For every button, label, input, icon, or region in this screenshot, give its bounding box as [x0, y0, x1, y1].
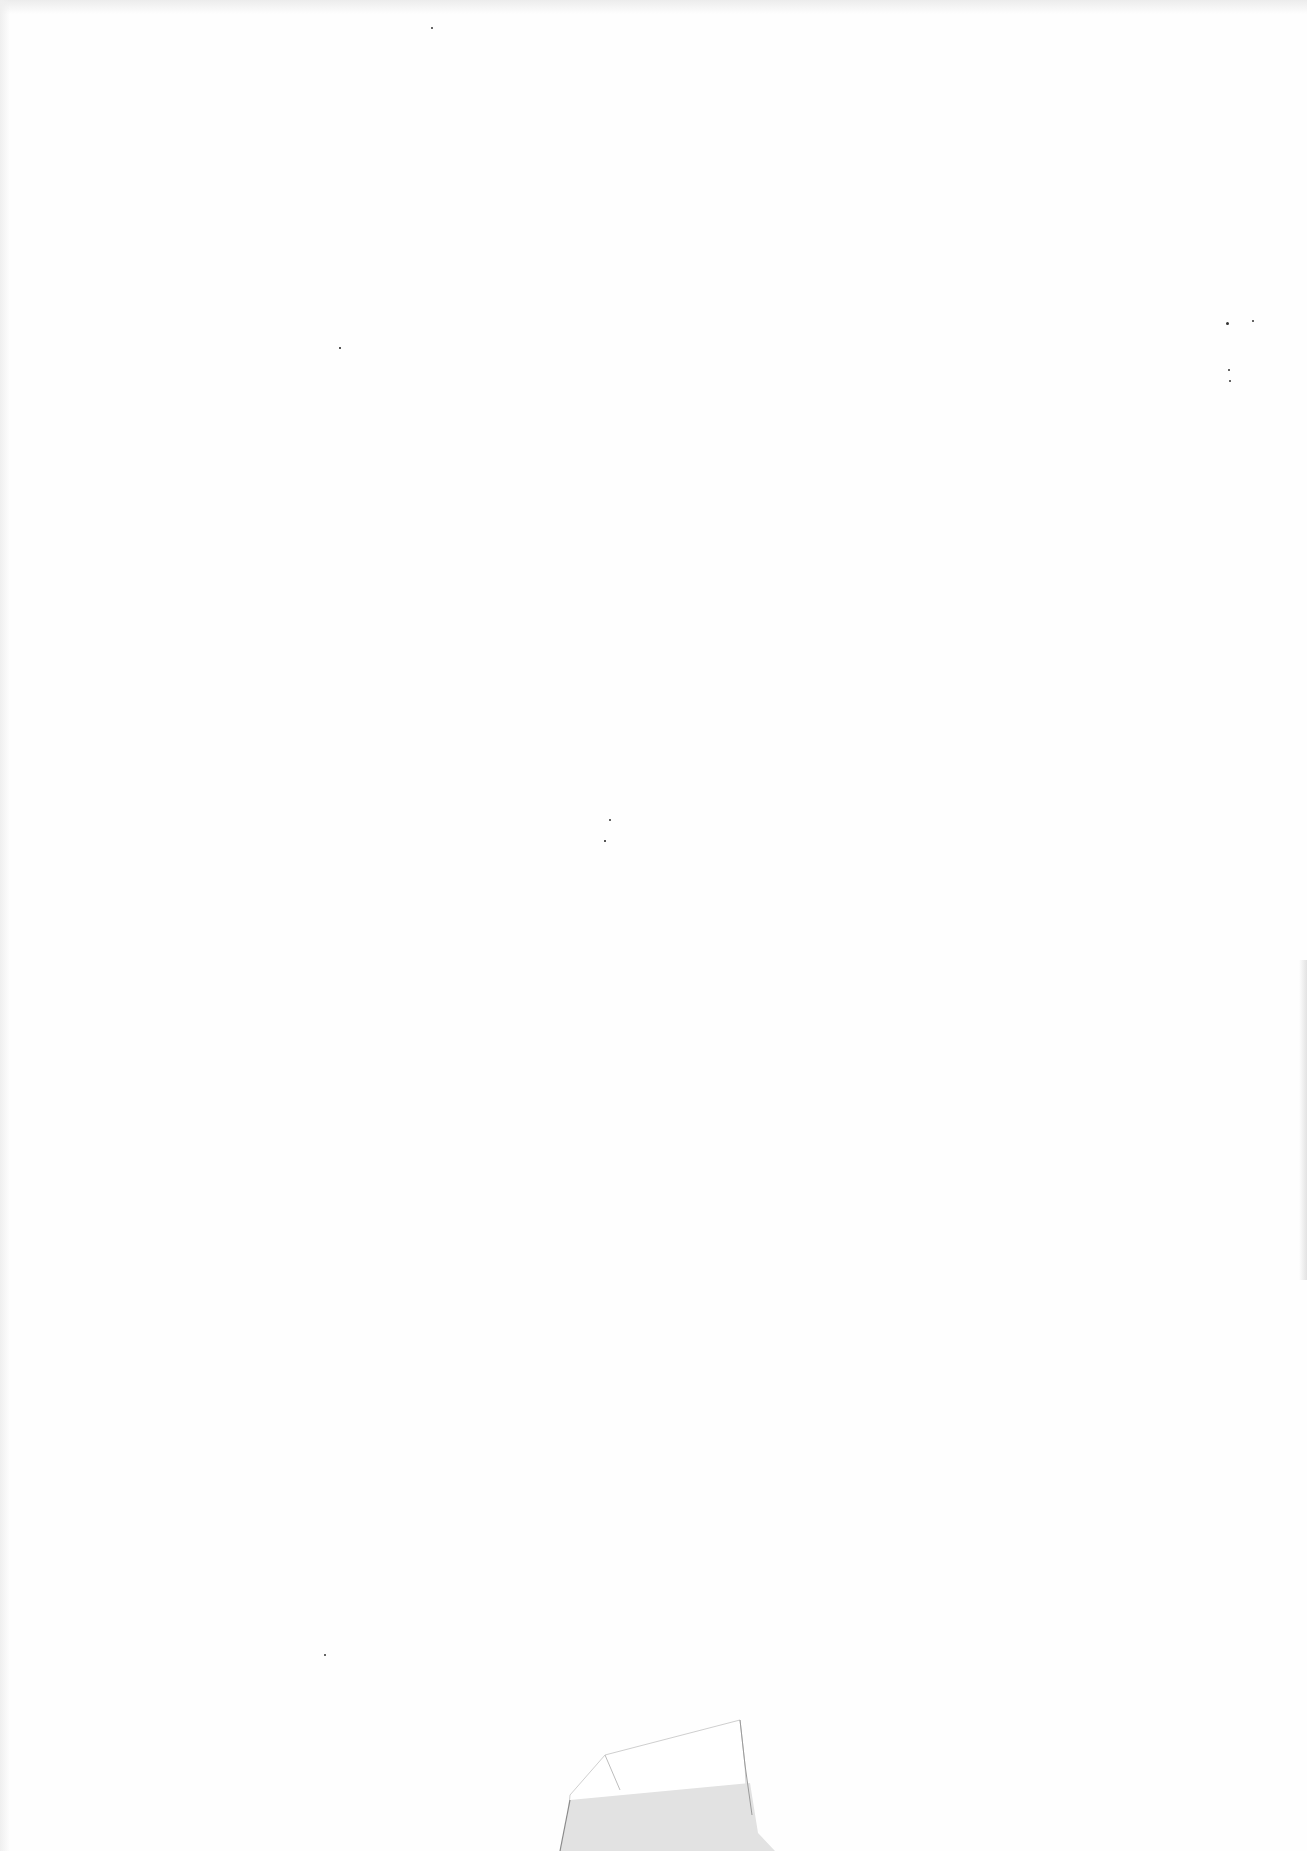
speck — [1252, 320, 1254, 322]
torn-paper-shape — [540, 1715, 800, 1851]
speck — [1229, 380, 1231, 382]
speck — [609, 819, 611, 821]
speck — [1226, 322, 1229, 325]
speck — [339, 347, 341, 349]
speck — [431, 27, 433, 29]
speck — [1228, 369, 1230, 371]
torn-tape-artifact — [540, 1715, 800, 1851]
speck — [604, 840, 606, 842]
scan-edge-shadow-left — [0, 0, 10, 1851]
scan-edge-shadow-top — [0, 0, 1307, 14]
blank-page — [0, 0, 1307, 1851]
speck — [324, 1654, 326, 1656]
scan-edge-shadow-right — [1299, 960, 1307, 1280]
